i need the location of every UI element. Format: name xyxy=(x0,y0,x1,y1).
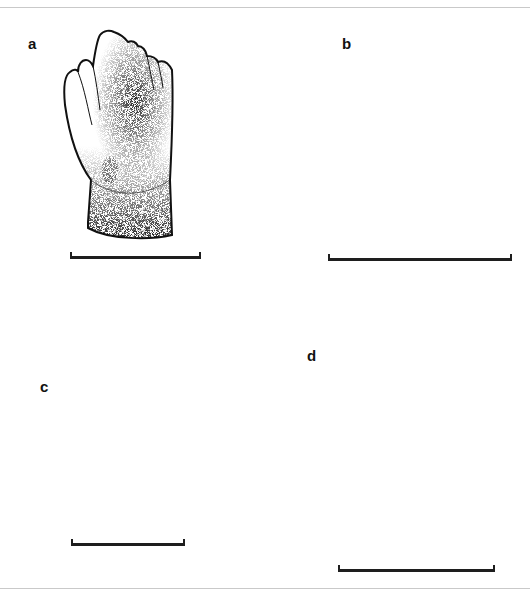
scale-bar-a xyxy=(70,256,201,259)
scale-bar-c xyxy=(71,543,185,546)
scale-bar-b xyxy=(328,258,512,261)
scale-bar-d xyxy=(338,569,495,572)
tooth-illustration-a xyxy=(60,25,180,245)
figure-illustrations xyxy=(0,0,530,597)
